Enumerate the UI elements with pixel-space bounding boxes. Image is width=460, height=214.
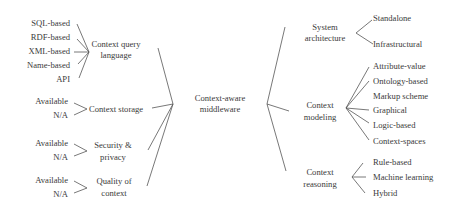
leaf-attribute-value: Attribute-value [373,61,426,71]
connector-storage [152,104,173,108]
left-trunk-connectors [147,48,173,186]
connector-modeling [267,104,289,111]
leaf-connector [356,20,372,33]
quality-label-line2: context [101,188,127,198]
leaf-connector [77,24,89,52]
reasoning-label-line2: reasoning [303,179,337,189]
architecture-label-line2: architecture [305,33,346,43]
leaf-ontology-based: Ontology-based [373,76,429,86]
leaf-available: Available [35,138,68,148]
leaf-standalone: Standalone [373,13,411,23]
leaf-logic-based: Logic-based [373,120,416,130]
leaf-connector [77,39,89,52]
leaf-rdf-based: RDF-based [31,32,71,42]
branch-security: Security & privacy Available N/A [35,138,132,162]
leaf-available: Available [35,96,68,106]
leaf-connector [74,109,87,115]
leaf-connector [346,67,369,108]
leaf-connector [74,181,87,188]
branch-quality: Quality of context Available N/A [35,175,131,199]
architecture-label-line1: System [312,22,338,32]
branch-architecture: System architecture Standalone Infrastru… [305,13,423,49]
center-label-line1: Context-aware [195,93,246,103]
modeling-label-line1: Context [306,100,334,110]
leaf-markup-scheme: Markup scheme [373,91,428,101]
leaf-na: N/A [53,152,69,162]
branch-reasoning: Context reasoning Rule-based Machine lea… [303,157,434,198]
leaf-connector [74,151,87,156]
leaf-connector [356,33,373,44]
leaf-connector [352,177,365,193]
leaf-connector [346,108,369,110]
query-language-label-line2: language [100,50,131,60]
leaf-hybrid: Hybrid [373,188,398,198]
connector-query-language [158,48,173,104]
leaf-available: Available [35,175,68,185]
branch-modeling: Context modeling Attribute-value Ontolog… [304,61,429,146]
quality-label-line1: Quality of [96,176,131,186]
leaf-connector [346,108,369,123]
center-node: Context-aware middleware [195,93,246,114]
connector-reasoning [267,104,286,171]
leaf-connector [352,163,363,177]
leaf-connector [346,108,369,140]
leaf-graphical: Graphical [373,105,407,115]
right-trunk-connectors [267,27,289,171]
storage-label: Context storage [89,104,143,114]
modeling-label-line2: modeling [304,112,337,122]
leaf-connector [74,103,87,109]
connector-architecture [267,27,285,104]
leaf-connector [78,52,89,64]
leaf-api: API [56,74,70,84]
context-aware-middleware-taxonomy: Context-aware middleware Context query l… [0,0,460,214]
leaf-connector [74,188,87,193]
reasoning-label-line1: Context [306,167,334,177]
leaf-xml-based: XML-based [28,46,70,56]
leaf-connector [74,144,87,151]
branch-query-language: Context query language SQL-based RDF-bas… [27,18,141,84]
leaf-rule-based: Rule-based [373,157,412,167]
leaf-na: N/A [53,110,69,120]
leaf-na: N/A [53,189,69,199]
branch-storage: Context storage Available N/A [35,96,143,120]
security-label-line1: Security & [94,140,132,150]
leaf-infrastructural: Infrastructural [373,39,423,49]
leaf-name-based: Name-based [27,60,71,70]
center-label-line2: middleware [200,104,241,114]
leaf-machine-learning: Machine learning [373,172,434,182]
leaf-connector [346,81,369,108]
leaf-sql-based: SQL-based [31,18,70,28]
query-language-label-line1: Context query [92,39,142,49]
security-label-line2: privacy [100,152,126,162]
leaf-context-spaces: Context-spaces [373,136,426,146]
leaf-connector [79,52,89,78]
